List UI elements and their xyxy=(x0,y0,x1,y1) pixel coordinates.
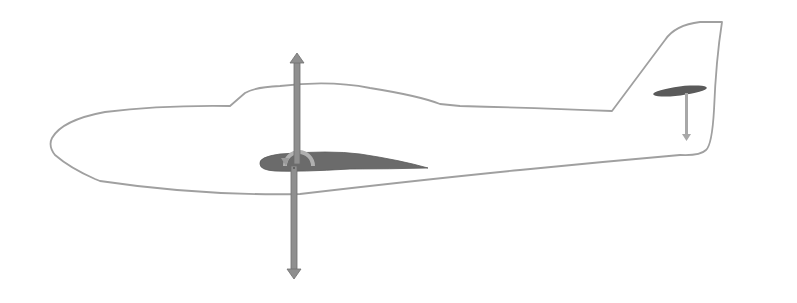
aircraft-force-diagram xyxy=(0,0,797,303)
horizontal-stabilizer xyxy=(653,83,708,99)
weight-arrow-icon xyxy=(287,166,301,279)
lift-arrow-icon xyxy=(290,53,304,164)
tail-downforce-arrow-icon xyxy=(682,93,691,141)
